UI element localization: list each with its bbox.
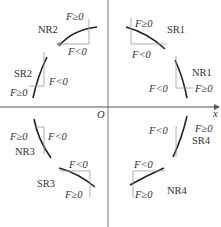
region-nr3: NR3 F≥0 F<0 bbox=[9, 119, 67, 158]
region-sr4: SR4 F<0 F≥0 bbox=[148, 116, 213, 157]
region-nr4: NR4 F<0 F≥0 bbox=[130, 159, 188, 200]
svg-text:F<0: F<0 bbox=[68, 159, 88, 170]
region-sr2: SR2 F<0 F≥0 bbox=[9, 52, 68, 98]
svg-text:SR3: SR3 bbox=[37, 178, 55, 189]
origin-label: O bbox=[97, 109, 105, 120]
svg-text:F<0: F<0 bbox=[148, 125, 168, 136]
region-sr1: SR1 F≥0 F<0 bbox=[126, 18, 185, 60]
svg-text:F<0: F<0 bbox=[131, 49, 151, 60]
svg-text:F≥0: F≥0 bbox=[64, 189, 83, 200]
circular-interpolation-diagram: x O NR2 F≥0 F<0 SR2 F<0 F≥0 SR1 F≥0 F<0 … bbox=[0, 0, 221, 227]
svg-text:NR4: NR4 bbox=[167, 185, 188, 196]
svg-text:F<0: F<0 bbox=[148, 83, 168, 94]
region-sr3: SR3 F<0 F≥0 bbox=[37, 159, 95, 200]
svg-text:F<0: F<0 bbox=[133, 159, 153, 170]
svg-text:F≥0: F≥0 bbox=[194, 123, 213, 134]
svg-text:NR3: NR3 bbox=[15, 146, 35, 157]
svg-text:NR2: NR2 bbox=[38, 24, 58, 35]
svg-text:F<0: F<0 bbox=[67, 46, 87, 57]
svg-text:SR1: SR1 bbox=[167, 24, 185, 35]
svg-text:F≥0: F≥0 bbox=[9, 131, 28, 142]
svg-text:F≥0: F≥0 bbox=[134, 189, 153, 200]
svg-text:F≥0: F≥0 bbox=[9, 87, 28, 98]
x-axis-label: x bbox=[212, 108, 218, 119]
svg-text:NR1: NR1 bbox=[192, 67, 212, 78]
svg-text:F≥0: F≥0 bbox=[134, 18, 153, 29]
svg-text:F<0: F<0 bbox=[47, 131, 67, 142]
region-nr1: NR1 F<0 F≥0 bbox=[148, 56, 213, 98]
diagram-svg: x O NR2 F≥0 F<0 SR2 F<0 F≥0 SR1 F≥0 F<0 … bbox=[0, 0, 221, 227]
svg-text:F≥0: F≥0 bbox=[65, 11, 84, 22]
region-nr2: NR2 F≥0 F<0 bbox=[38, 11, 97, 57]
svg-text:F<0: F<0 bbox=[48, 76, 68, 87]
svg-text:F≥0: F≥0 bbox=[194, 83, 213, 94]
svg-text:SR4: SR4 bbox=[192, 135, 211, 146]
svg-text:SR2: SR2 bbox=[14, 68, 32, 79]
